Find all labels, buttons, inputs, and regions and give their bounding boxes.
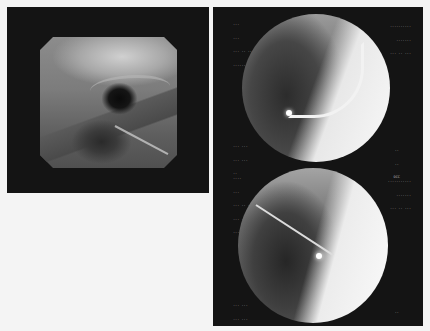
wire-tip: [316, 253, 322, 259]
frame2-overlay-top-right: ........... ....... ... .. ...: [388, 170, 411, 220]
fluoroscopy-frame-top: [242, 14, 390, 162]
mucosal-fold: [90, 75, 170, 102]
overlay-line: ... .. ...: [390, 51, 411, 56]
overlay-line: ... .. ..: [233, 49, 252, 54]
overlay-line: ..: [393, 310, 401, 315]
endoscopy-image: [40, 37, 177, 168]
overlay-line: ... ...: [233, 158, 248, 163]
fluoroscopy-frame-bottom: [238, 168, 388, 323]
overlay-line: ..: [393, 148, 401, 153]
catheter-tip: [286, 110, 292, 116]
catheter: [288, 42, 364, 118]
overlay-line: ... ...: [233, 303, 248, 308]
overlay-line: ... .. ...: [388, 206, 411, 211]
endoscopy-panel: [7, 7, 209, 193]
frame2-overlay-bottom-right: .. .. OCC: [393, 301, 401, 326]
overlay-line: ..: [393, 162, 401, 167]
fluoroscopy-panel: ... ... ... .. .. ....... .......... ...…: [213, 7, 423, 326]
frame2-overlay-bottom-left: ... ... ... ... ..: [233, 294, 248, 326]
overlay-line: ....: [233, 176, 252, 181]
overlay-line: .......: [388, 193, 411, 198]
overlay-line: ...........: [388, 179, 411, 184]
overlay-line: ... ...: [233, 317, 248, 322]
guide-wire: [255, 204, 333, 256]
overlay-line: ..: [393, 324, 401, 327]
overlay-line: ..........: [390, 24, 411, 29]
instrument-streak: [115, 125, 169, 155]
overlay-line: .......: [390, 38, 411, 43]
overlay-line: ...: [233, 36, 252, 41]
overlay-line: ...: [233, 22, 252, 27]
overlay-line: ... ...: [233, 144, 248, 149]
frame1-overlay-top-right: .......... ....... ... .. ...: [390, 15, 411, 65]
overlay-line: ...: [233, 190, 252, 195]
